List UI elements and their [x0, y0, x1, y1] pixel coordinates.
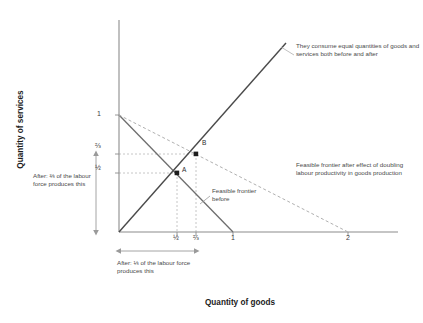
bottom-measure-arrow — [116, 248, 200, 254]
x-tick-label-2: 2 — [342, 234, 354, 241]
x-tick-label-two-thirds: ⅔ — [188, 234, 204, 241]
annotation-goods-share: After: ⅓ of the labour force produces th… — [117, 259, 203, 276]
y-tick-label-one-half: ½ — [90, 164, 106, 171]
y-tick-label-1: 1 — [92, 110, 106, 117]
annotation-equal-consumption: They consume equal quantities of goods a… — [296, 42, 420, 59]
annotation-services-share: After: ⅔ of the labour force produces th… — [33, 172, 95, 189]
point-marker-b — [194, 152, 199, 157]
point-label-a: A — [182, 166, 186, 173]
annotation-frontier-before: Feasible frontier before — [212, 187, 258, 204]
x-tick-label-1: 1 — [227, 234, 239, 241]
point-marker-a — [175, 171, 180, 176]
equal-consumption-ray — [119, 43, 286, 232]
x-tick-label-one-half: ½ — [169, 234, 183, 241]
ray-note-leader-line — [281, 47, 294, 55]
annotation-frontier-after: Feasible frontier after effect of doubli… — [296, 161, 422, 178]
ppf-diagram: Quantity of services Quantity of goods 1… — [0, 0, 423, 323]
y-axis-title: Quantity of services — [16, 70, 25, 190]
left-measure-arrowhead-bottom — [93, 230, 99, 236]
y-tick-label-two-thirds: ⅔ — [90, 142, 106, 149]
bottom-measure-arrowhead-left — [116, 248, 122, 254]
left-measure-arrowhead-top — [93, 151, 99, 157]
point-label-b: B — [202, 139, 206, 146]
bottom-measure-arrowhead-right — [194, 248, 200, 254]
x-axis-title: Quantity of goods — [150, 298, 330, 307]
